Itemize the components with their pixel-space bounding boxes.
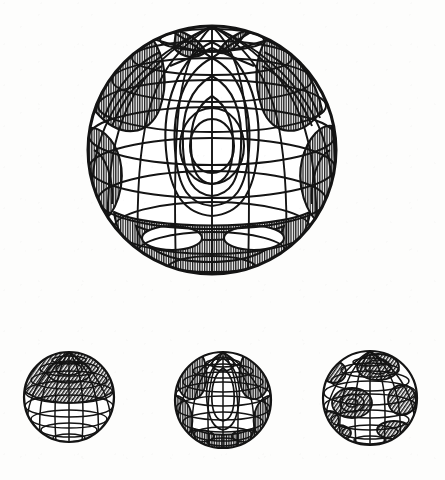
small-sphere-right bbox=[321, 351, 417, 445]
small-sphere-left bbox=[24, 352, 114, 442]
figure-canvas bbox=[0, 0, 445, 480]
spherical-contour-figure bbox=[0, 0, 445, 480]
